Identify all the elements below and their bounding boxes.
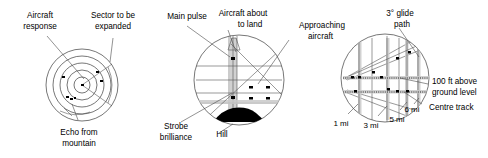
blip-d — [66, 96, 69, 98]
label-glide-path-line2: path — [394, 20, 410, 29]
leader-approaching — [258, 40, 289, 84]
label-echo-line1: Echo from — [60, 128, 97, 137]
blip-track-lower-1 — [354, 90, 357, 93]
blip-landing — [231, 57, 235, 60]
label-sector-line2: expanded — [95, 22, 131, 31]
panel-ppi-surveillance: Aircraft response Sector to be expanded … — [23, 11, 135, 148]
label-altitude-line1: 100 ft above — [432, 77, 478, 86]
blip-centre — [81, 84, 84, 86]
blip-approach-4 — [266, 97, 270, 100]
label-main-pulse: Main pulse — [167, 12, 207, 21]
blip-glide-1 — [396, 57, 399, 60]
label-range-6mi: 6 mi — [404, 105, 419, 114]
label-aircraft-landing-line2: to land — [238, 20, 263, 29]
blip-approach-3 — [249, 97, 253, 100]
blip-track-upper-1 — [351, 76, 354, 79]
label-centre-track: Centre track — [429, 103, 474, 112]
label-glide-path-line1: 3° glide — [386, 9, 414, 18]
label-strobe-line2: brilliance — [160, 133, 193, 142]
blip-glide-2 — [408, 51, 411, 54]
blip-f — [74, 97, 76, 99]
label-aircraft-response-line2: response — [23, 22, 57, 31]
leader-sector — [110, 38, 113, 62]
hill-silhouette — [213, 108, 265, 122]
label-approaching-line2: aircraft — [308, 32, 334, 41]
label-range-3mi: 3 mi — [363, 121, 378, 130]
label-range-1mi: 1 mi — [333, 119, 348, 128]
blip-track-upper-2 — [358, 76, 361, 79]
label-aircraft-response-line1: Aircraft — [27, 11, 54, 20]
leader-3mi — [378, 106, 387, 116]
blip-b — [100, 80, 103, 82]
leader-1mi — [348, 104, 358, 114]
label-hill: Hill — [216, 130, 228, 139]
label-echo-line2: mountain — [62, 139, 96, 148]
figure-root: Aircraft response Sector to be expanded … — [0, 0, 488, 158]
leader-aircraft-response — [47, 36, 84, 79]
label-strobe-line1: Strobe — [164, 122, 189, 131]
panel-height-finder: Main pulse Aircraft about to land Approa… — [160, 9, 346, 142]
leader-main-pulse — [187, 26, 230, 57]
sector-arc-outer — [108, 67, 112, 103]
blip-track-lower-4 — [406, 90, 409, 93]
blip-ground — [231, 96, 235, 99]
label-approaching-line1: Approaching — [299, 21, 345, 30]
blip-c — [62, 76, 65, 78]
blip-track-lower-2 — [387, 88, 390, 91]
blip-approach-2 — [266, 86, 270, 89]
blip-track-lower-3 — [396, 90, 399, 93]
label-altitude-line2: ground level — [432, 88, 477, 97]
blip-approach-1 — [249, 86, 253, 89]
figure-canvas: Aircraft response Sector to be expanded … — [0, 0, 488, 158]
blip-track-upper-3 — [380, 76, 383, 79]
blip-glide-3 — [372, 71, 375, 74]
label-aircraft-landing-line1: Aircraft about — [219, 9, 268, 18]
range-band-1 — [358, 42, 362, 118]
display-contents-2 — [196, 36, 282, 124]
ground-band — [196, 100, 282, 104]
blip-e — [70, 98, 73, 100]
label-sector-line1: Sector to be — [91, 11, 136, 20]
label-range-5mi: 5 mi — [389, 115, 404, 124]
panel-glide-path: 3° glide path 100 ft above ground level … — [333, 9, 477, 130]
blip-a — [96, 71, 99, 73]
